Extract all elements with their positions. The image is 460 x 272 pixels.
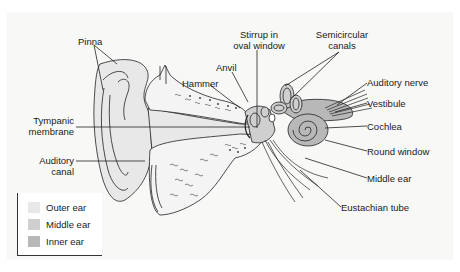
legend-item-middle-ear: Middle ear [28, 218, 90, 230]
label-hammer: Hammer [182, 78, 218, 89]
label-anvil: Anvil [216, 62, 237, 73]
label-vestibule: Vestibule [367, 98, 406, 109]
swatch-middle-ear [28, 219, 40, 230]
label-middle-ear: Middle ear [367, 173, 411, 184]
label-tympanic-membrane: Tympanic membrane [10, 115, 74, 137]
anvil-bone [261, 107, 269, 117]
label-round-window: Round window [367, 146, 429, 157]
label-auditory-canal: Auditory canal [10, 155, 74, 177]
hammer-bone [250, 113, 260, 127]
label-cochlea: Cochlea [367, 121, 402, 132]
pinna-shape [94, 60, 152, 202]
temporal-bone-lower [149, 134, 265, 215]
legend-item-outer-ear: Outer ear [28, 201, 86, 213]
semicircular-canals [271, 84, 302, 114]
swatch-outer-ear [28, 202, 40, 213]
label-semicircular-canals: Semicircular canals [312, 29, 372, 51]
label-eustachian-tube: Eustachian tube [341, 202, 409, 213]
eustachian-tube-fibers [262, 140, 328, 202]
cochlea-shape [288, 114, 328, 146]
stirrup-bone [269, 114, 275, 122]
legend: Outer ear Middle ear Inner ear [17, 193, 102, 256]
label-pinna: Pinna [78, 36, 102, 47]
label-stirrup: Stirrup in oval window [232, 29, 286, 51]
swatch-inner-ear [28, 236, 40, 247]
label-auditory-nerve: Auditory nerve [367, 77, 428, 88]
legend-item-inner-ear: Inner ear [28, 235, 84, 247]
